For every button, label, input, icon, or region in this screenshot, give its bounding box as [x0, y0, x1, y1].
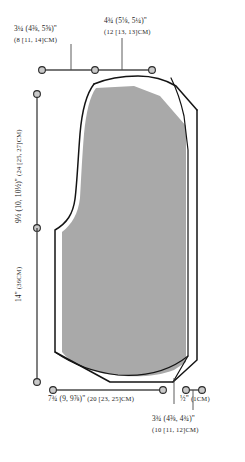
label-left-upper-inches: 9½ (10, 10½)"	[14, 178, 23, 223]
label-bottom-left: 7¾ (9, 9⅞)" (20 [23, 25]CM)	[48, 394, 134, 405]
ruler-marker-bottom-right-start	[183, 387, 190, 394]
label-bottom-right-small-inches: ½"	[180, 394, 189, 403]
label-left-upper-cm: (24 [25, 27]CM)	[15, 129, 22, 176]
label-top-right-inches: 4¾ (5⅛, 5¼)"	[104, 16, 151, 27]
label-top-left: 3¼ (4⅜, 5⅝)" (8 [11, 14]CM)	[14, 24, 57, 45]
label-left-lower-inches: 14"	[14, 291, 23, 302]
label-top-right-cm: (12 [13, 13]CM)	[104, 27, 151, 38]
label-bottom-right-inches: 3¾ (4⅜, 4¾)"	[152, 414, 199, 425]
label-left-upper: 9½ (10, 10½)" (24 [25, 27]CM)	[14, 129, 25, 223]
label-bottom-left-cm: (20 [23, 25]CM)	[87, 395, 134, 402]
label-top-left-cm: (8 [11, 14]CM)	[14, 35, 57, 46]
ruler-left-lower	[34, 228, 41, 385]
label-left-lower: 14" (36CM)	[14, 267, 25, 302]
ruler-marker-top-middle	[92, 67, 99, 74]
label-bottom-right-small-cm: (1CM)	[191, 395, 210, 402]
pattern-drawing	[0, 0, 245, 462]
pattern-schematic-sheet: 3¼ (4⅜, 5⅝)" (8 [11, 14]CM) 4¾ (5⅛, 5¼)"…	[0, 0, 245, 462]
ruler-marker-bottom-right-end	[199, 387, 206, 394]
label-top-left-inches: 3¼ (4⅜, 5⅝)"	[14, 24, 57, 35]
garment-piece	[55, 76, 197, 382]
label-left-lower-cm: (36CM)	[15, 267, 22, 289]
ruler-marker-bottom-start	[50, 387, 57, 394]
label-bottom-right-cm: (10 [11, 12]CM)	[152, 425, 199, 436]
ruler-marker-top-end	[149, 67, 156, 74]
ruler-marker-left-lower-end	[34, 379, 41, 386]
ruler-marker-top-start	[39, 67, 46, 74]
label-bottom-left-inches: 7¾ (9, 9⅞)"	[48, 394, 85, 403]
ruler-marker-bottom-end	[160, 387, 167, 394]
ruler-left-upper	[34, 91, 41, 232]
label-bottom-right-small: ½" (1CM)	[180, 394, 210, 405]
ruler-marker-left-upper-start	[34, 91, 41, 98]
label-top-right: 4¾ (5⅛, 5¼)" (12 [13, 13]CM)	[104, 16, 151, 37]
label-bottom-right: 3¾ (4⅜, 4¾)" (10 [11, 12]CM)	[152, 414, 199, 435]
